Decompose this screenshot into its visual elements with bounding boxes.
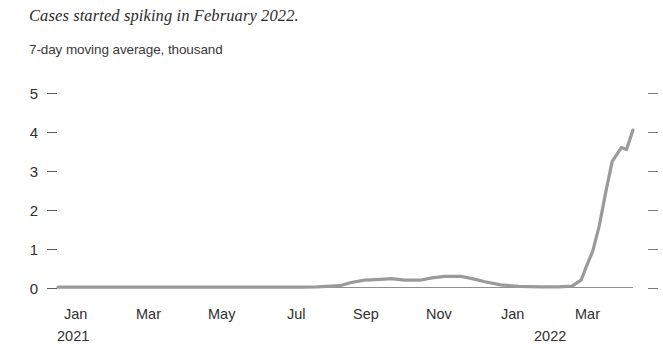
x-axis-year-2021: 2021: [57, 328, 89, 344]
x-axis-label-mar-2022: Mar: [575, 306, 600, 322]
series-line-group: [0, 0, 663, 355]
x-axis-label-jul-2021: Jul: [287, 306, 306, 322]
series-line-7day-moving-average: [58, 130, 633, 287]
x-axis-label-nov-2021: Nov: [426, 306, 452, 322]
plot-area: 5 4 3 2 1 0 Jan Mar May Jul Sep Nov Jan: [0, 0, 663, 355]
x-axis-label-jan-2022: Jan: [501, 306, 524, 322]
x-axis-label-mar-2021: Mar: [136, 306, 161, 322]
x-axis-label-may-2021: May: [208, 306, 235, 322]
x-axis-year-2022: 2022: [534, 328, 566, 344]
x-axis-label-jan-2021: Jan: [64, 306, 87, 322]
x-axis-label-sep-2021: Sep: [353, 306, 379, 322]
chart-figure: Cases started spiking in February 2022. …: [0, 0, 663, 355]
